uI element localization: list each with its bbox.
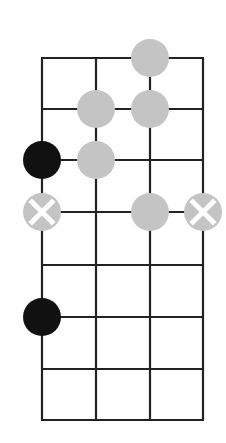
crossed-note-icon [23,193,61,231]
root-note-dot [23,298,61,336]
note-dot [77,90,115,128]
crossed-note-icon [184,193,222,231]
note-dot [131,90,169,128]
root-note-dot [23,141,61,179]
fretboard-grid [41,58,204,420]
note-markers [23,39,222,336]
fretboard-diagram [0,0,226,443]
note-dot [77,141,115,179]
note-dot [131,193,169,231]
note-dot [131,39,169,77]
